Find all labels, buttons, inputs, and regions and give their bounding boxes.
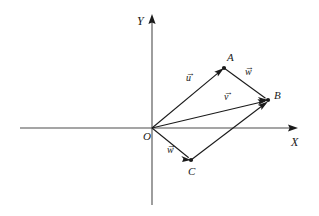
x-axis [20, 124, 298, 131]
vector-letter-u: u [186, 73, 195, 83]
vector-cb [191, 102, 268, 161]
point-label-a: A [227, 52, 234, 63]
vector-label-v: → v [224, 91, 233, 101]
vector-letter-w-oc: w [167, 145, 176, 155]
y-axis-label: Y [137, 15, 144, 27]
point-label-b: B [274, 90, 281, 101]
point-label-c: C [188, 166, 195, 177]
point-label-o: O [143, 131, 151, 142]
vector-label-w-oc: → w [167, 144, 176, 154]
vector-ob-shaft [152, 101, 265, 128]
vector-cb-shaft [191, 103, 266, 160]
vector-letter-v: v [224, 92, 233, 102]
vector-diagram-figure: Y X O A B C → u → w → v → w [0, 0, 319, 216]
y-axis [148, 14, 155, 205]
vector-letter-w-ab: w [245, 67, 254, 77]
vector-label-w-ab: → w [245, 66, 254, 76]
figure-canvas [0, 0, 319, 216]
x-axis-label: X [291, 136, 298, 148]
point-dot-c [189, 158, 193, 162]
point-dot-b [266, 98, 270, 102]
vector-label-u: → u [186, 72, 195, 82]
point-dot-a [222, 66, 226, 70]
